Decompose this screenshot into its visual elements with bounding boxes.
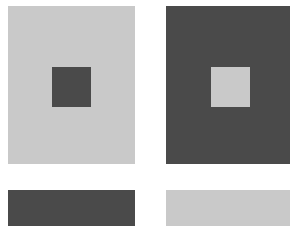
right-inner-square [211,67,250,107]
left-bar [8,190,135,226]
left-inner-square [52,67,91,107]
right-bar [166,190,290,226]
